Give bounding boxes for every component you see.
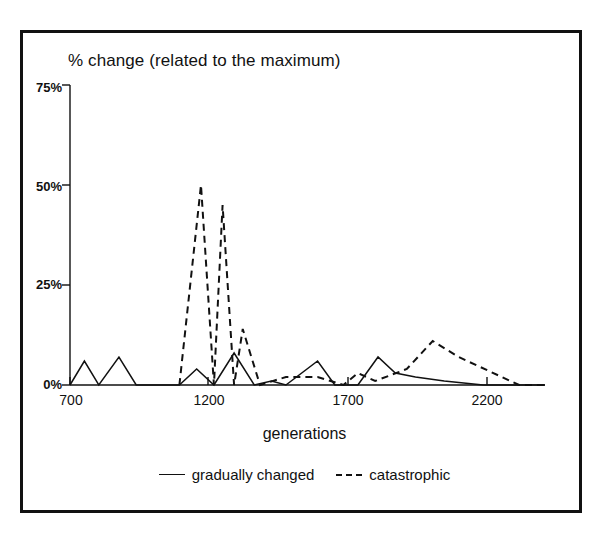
y-tick-label-50: 50% [16, 180, 62, 193]
y-tick-marks [62, 85, 70, 385]
legend-item-catastrophic: catastrophic [336, 466, 450, 483]
legend-line-solid-icon [159, 474, 185, 475]
plot-area [0, 0, 609, 535]
figure: % change (related to the maximum) 75% 50… [0, 0, 609, 535]
x-tick-label-2200: 2200 [452, 393, 522, 407]
x-tick-label-1700: 1700 [313, 393, 383, 407]
y-tick-label-0: 0% [16, 378, 62, 391]
y-tick-label-75: 75% [16, 81, 62, 94]
x-axis-label: generations [0, 426, 609, 442]
series-gradually-changed [70, 353, 545, 385]
y-tick-label-25: 25% [16, 278, 62, 291]
x-tick-label-700: 700 [36, 393, 106, 407]
x-tick-label-1200: 1200 [174, 393, 244, 407]
legend-label-catastrophic: catastrophic [369, 466, 450, 483]
chart-legend: gradually changed catastrophic [0, 466, 609, 483]
series-catastrophic [179, 185, 545, 385]
legend-line-dashed-icon [336, 474, 362, 476]
legend-item-gradually-changed: gradually changed [159, 466, 315, 483]
chart-title: % change (related to the maximum) [68, 52, 341, 69]
legend-label-gradually-changed: gradually changed [192, 466, 315, 483]
